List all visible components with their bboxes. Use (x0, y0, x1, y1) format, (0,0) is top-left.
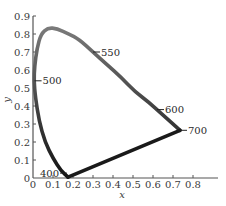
y-axis-title: y (1, 97, 12, 104)
x-tick-label: 0 (30, 179, 36, 190)
x-tick-label: 0.7 (165, 179, 181, 190)
y-tick-label: 0.8 (14, 29, 30, 40)
axes: 00.10.20.30.40.50.60.70.800.10.20.30.40.… (14, 11, 218, 191)
y-tick-label: 0.4 (14, 101, 30, 112)
wavelength-label-550: 550 (101, 47, 120, 58)
y-tick-label: 0.7 (14, 47, 30, 58)
wavelength-label-700: 700 (188, 125, 207, 136)
y-tick-label: 0 (24, 173, 30, 184)
wavelength-label-400: 400 (40, 168, 59, 179)
x-axis-title: x (119, 189, 125, 200)
y-tick-label: 0.1 (14, 155, 30, 166)
chromaticity-diagram: 00.10.20.30.40.50.60.70.800.10.20.30.40.… (0, 0, 226, 206)
x-tick-label: 0.3 (85, 179, 101, 190)
x-tick-label: 0.2 (65, 179, 81, 190)
y-tick-label: 0.9 (14, 11, 30, 22)
y-tick-label: 0.3 (14, 119, 30, 130)
y-tick-label: 0.6 (14, 65, 30, 76)
wavelength-annotations: 400500550600700 (35, 47, 207, 179)
y-tick-label: 0.5 (14, 83, 30, 94)
wavelength-label-600: 600 (165, 104, 184, 115)
x-tick-label: 0.8 (185, 179, 201, 190)
wavelength-label-500: 500 (43, 75, 62, 86)
line-of-purples (68, 130, 180, 177)
y-tick-label: 0.2 (14, 137, 30, 148)
x-tick-label: 0.6 (145, 179, 161, 190)
x-tick-label: 0.1 (45, 179, 61, 190)
x-tick-label: 0.5 (125, 179, 141, 190)
